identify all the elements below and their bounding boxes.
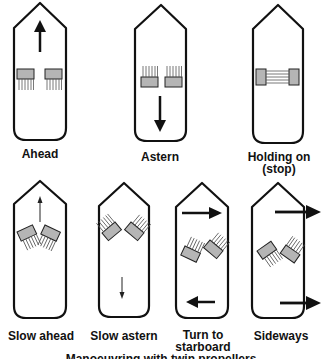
panel-slow-ahead — [14, 181, 66, 318]
panel-turn-to-starboard — [176, 183, 230, 318]
panel-slow-astern — [95, 183, 151, 317]
figure-caption: Manoeuvring with twin propellers — [0, 352, 322, 359]
propellers-opposed — [256, 69, 299, 85]
panel-sideways — [252, 183, 321, 318]
label-slow-astern: Slow astern — [84, 330, 164, 343]
panel-holding-on — [253, 5, 303, 143]
label-holding-on-stop: (stop) — [236, 163, 322, 176]
panel-ahead — [14, 3, 66, 140]
panel-astern — [135, 5, 186, 141]
label-slow-ahead: Slow ahead — [0, 330, 82, 343]
label-sideways: Sideways — [246, 330, 316, 343]
manoeuvring-diagram — [0, 0, 322, 359]
hull-outline — [99, 183, 149, 317]
label-ahead: Ahead — [10, 148, 70, 161]
label-astern: Astern — [130, 151, 190, 164]
